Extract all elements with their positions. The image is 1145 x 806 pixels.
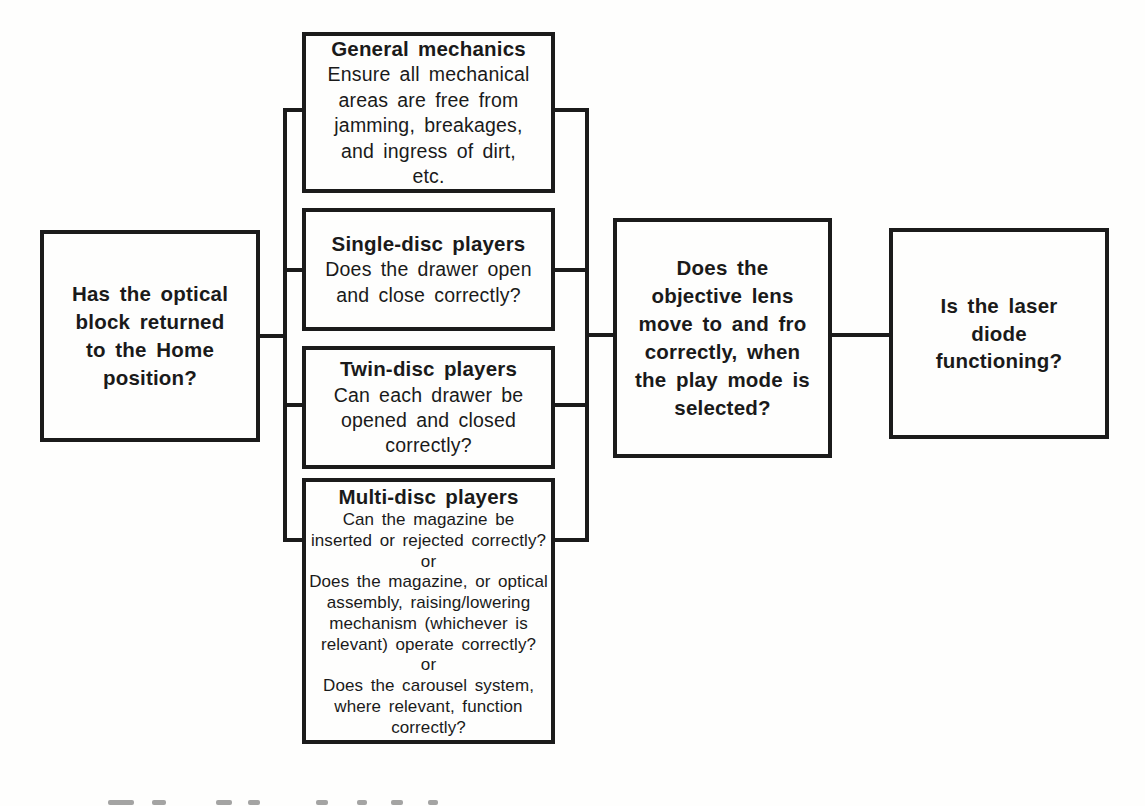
twin-disc-heading: Twin-disc players <box>340 356 517 383</box>
node-general-mechanics: General mechanics Ensure all mechanical … <box>302 32 555 193</box>
connector-objective-to-laser <box>830 333 891 337</box>
single-disc-heading: Single-disc players <box>332 231 526 258</box>
laser-diode-question-text: Is the laser diode functioning? <box>936 292 1063 376</box>
twin-disc-body: Can each drawer be opened and closed cor… <box>334 383 524 459</box>
connector-left-bracket-vertical <box>283 108 287 542</box>
connector-left-stub-multi <box>283 538 304 542</box>
connector-bracket-to-objective <box>585 333 615 337</box>
node-laser-diode-question: Is the laser diode functioning? <box>889 228 1109 439</box>
connector-right-stub-twin <box>553 403 589 407</box>
connector-right-stub-general <box>553 108 589 112</box>
general-mechanics-heading: General mechanics <box>331 36 526 63</box>
connector-left-stub-twin <box>283 403 304 407</box>
node-objective-lens-question: Does the objective lens move to and fro … <box>613 218 832 458</box>
connector-left-stub-single <box>283 268 304 272</box>
node-optical-block-question: Has the optical block returned to the Ho… <box>40 230 260 442</box>
objective-lens-question-text: Does the objective lens move to and fro … <box>635 254 810 421</box>
connector-right-stub-single <box>553 268 589 272</box>
connector-optical-to-bracket <box>256 334 285 338</box>
connector-right-bracket-vertical <box>585 108 589 542</box>
multi-disc-body: Can the magazine be inserted or rejected… <box>309 510 548 738</box>
node-twin-disc-players: Twin-disc players Can each drawer be ope… <box>302 346 555 469</box>
node-multi-disc-players: Multi-disc players Can the magazine be i… <box>302 478 555 744</box>
flowchart-canvas: Has the optical block returned to the Ho… <box>0 0 1145 806</box>
node-single-disc-players: Single-disc players Does the drawer open… <box>302 208 555 331</box>
connector-right-stub-multi <box>553 538 589 542</box>
cut-off-caption-fragment <box>0 797 1145 806</box>
multi-disc-heading: Multi-disc players <box>338 484 518 511</box>
connector-left-stub-general <box>283 108 304 112</box>
general-mechanics-body: Ensure all mechanical areas are free fro… <box>328 62 530 189</box>
optical-block-question-text: Has the optical block returned to the Ho… <box>72 280 228 392</box>
single-disc-body: Does the drawer open and close correctly… <box>325 257 531 308</box>
